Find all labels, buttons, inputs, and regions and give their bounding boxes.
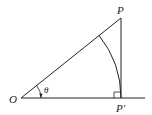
label-p: P (116, 4, 124, 16)
ray-op (21, 18, 121, 98)
right-angle-marker (114, 92, 121, 98)
angle-arrowhead-icon (39, 94, 42, 99)
geometry-diagram: O P P′ θ (0, 0, 152, 115)
arc (99, 36, 121, 99)
label-o: O (9, 93, 17, 105)
label-theta: θ (44, 85, 49, 95)
label-p-prime: P′ (115, 102, 126, 114)
